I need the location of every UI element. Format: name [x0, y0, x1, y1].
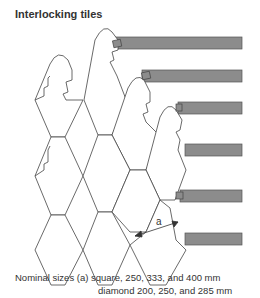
clip	[176, 192, 183, 199]
tile	[35, 137, 83, 215]
interlocking-tiles-diagram: a	[0, 0, 260, 298]
edge-bar	[142, 70, 242, 82]
hexagon-tiles	[35, 28, 186, 285]
tile	[35, 55, 83, 137]
caption-line-1: Nominal sizes (a) square, 250, 333, and …	[15, 272, 220, 283]
clip	[176, 104, 182, 111]
edge-bar	[185, 233, 242, 245]
edge-bar	[178, 102, 242, 114]
edge-bar	[185, 144, 242, 156]
edge-bar	[180, 190, 242, 202]
dimension-label: a	[156, 216, 162, 227]
clip	[141, 71, 150, 80]
edge-bar	[105, 37, 242, 49]
caption-line-2: diamond 200, 250, and 285 mm	[98, 285, 232, 296]
clip	[112, 39, 121, 48]
